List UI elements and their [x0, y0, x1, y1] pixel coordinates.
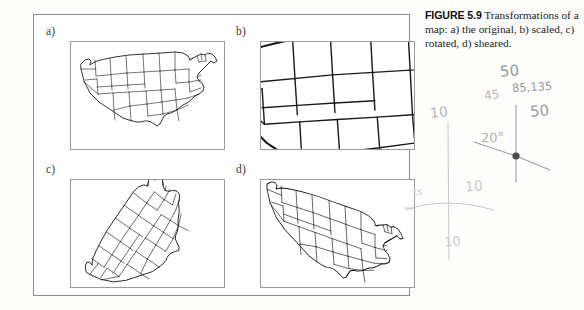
map-original — [71, 42, 224, 149]
map-frame-b — [260, 41, 415, 150]
annotation-45-left: 45 — [483, 87, 500, 103]
annotation-10-lower: 10 — [443, 233, 461, 249]
panel-b-label: b) — [236, 25, 246, 37]
annotation-85-135: 85,135 — [512, 79, 553, 95]
panel-d-label: d) — [236, 163, 246, 175]
panel-c-rotated: c) — [46, 163, 231, 293]
map-scaled — [261, 42, 414, 149]
map-frame-a — [70, 41, 225, 150]
figure-frame: a) — [33, 14, 410, 296]
figure-number: FIGURE 5.9 — [425, 9, 482, 21]
map-sheared — [261, 180, 414, 287]
annotation-50-top: 50 — [499, 61, 519, 80]
map-frame-d — [260, 179, 415, 288]
panel-d-sheared: d) — [236, 163, 421, 293]
annotation-ts-mark: ts — [413, 186, 422, 197]
annotation-10-left: 10 — [429, 103, 448, 121]
annotation-50-right: 50 — [529, 101, 550, 121]
panel-a-original: a) — [46, 25, 231, 155]
map-rotated — [71, 180, 224, 287]
map-frame-c — [70, 179, 225, 288]
figure-caption: FIGURE 5.9 Transformations of a map: a) … — [425, 8, 580, 51]
panel-b-scaled: b) — [236, 25, 421, 155]
panel-c-label: c) — [46, 163, 55, 175]
annotation-10-upper: 10 — [464, 177, 483, 194]
panel-a-label: a) — [46, 25, 55, 37]
annotation-20-degrees: 20° — [481, 129, 505, 145]
